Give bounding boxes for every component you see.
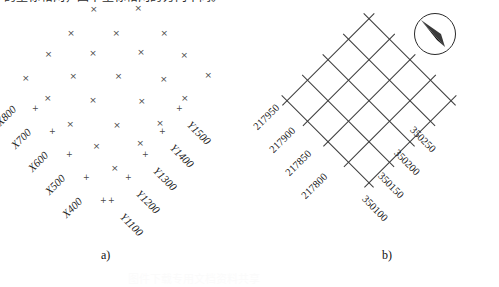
scatter-marker — [159, 75, 168, 84]
scatter-marker — [89, 49, 98, 58]
scatter-marker — [110, 164, 119, 173]
tick-y1400: + — [159, 127, 166, 136]
scatter-marker — [138, 96, 147, 105]
caption-panel-a: a) — [101, 248, 110, 263]
axis-label-x800: X800 — [0, 103, 18, 128]
scatter-marker — [136, 47, 145, 56]
scatter-marker — [160, 28, 169, 37]
scatter-marker — [67, 28, 76, 37]
tick-x400: + — [100, 196, 107, 205]
page-watermark: 图件下载专用文档资料共享 — [128, 270, 378, 284]
scatter-marker — [92, 141, 101, 150]
tick-x700: + — [49, 127, 56, 136]
scatter-row — [94, 8, 186, 100]
scatter-marker — [44, 50, 53, 59]
axis-label-x600: X600 — [26, 149, 51, 174]
tick-y1100: + — [108, 196, 115, 205]
coord-label-350100: 350100 — [360, 193, 390, 223]
north-arrow-compass — [414, 13, 458, 57]
tick-x500: + — [83, 173, 90, 182]
scatter-marker — [135, 139, 144, 148]
figure-panel-b: 217950 217900 217850 217800 350100 35015… — [249, 0, 499, 287]
scatter-row — [48, 54, 140, 146]
axis-label-x500: X500 — [43, 172, 68, 197]
axis-label-x400: X400 — [60, 195, 85, 220]
axis-label-y1200: Y1200 — [134, 188, 162, 216]
figure-panel-a: X800 X700 X600 X500 X400 + + + + + Y1100… — [0, 0, 250, 287]
scatter-marker — [180, 94, 189, 103]
scatter-row — [117, 0, 209, 77]
tick-x600: + — [66, 150, 73, 159]
scatter-marker — [88, 95, 97, 104]
scatter-row — [71, 31, 163, 123]
scatter-marker — [180, 51, 189, 60]
north-arrow-needle-icon — [414, 13, 456, 55]
scatter-marker — [113, 121, 122, 130]
coord-label-217950: 217950 — [251, 102, 281, 132]
scatter-marker — [89, 4, 98, 13]
coord-label-350150: 350150 — [376, 170, 406, 200]
scatter-marker — [66, 119, 75, 128]
axis-label-y1500: Y1500 — [185, 119, 213, 147]
tick-y1200: + — [125, 173, 132, 182]
scatter-marker — [112, 29, 121, 38]
scatter-marker — [44, 94, 53, 103]
scatter-marker — [114, 71, 123, 80]
axis-label-x700: X700 — [9, 126, 34, 151]
scatter-marker — [69, 72, 78, 81]
scatter-marker — [204, 70, 213, 79]
axis-label-y1100: Y1100 — [118, 211, 146, 239]
coord-label-217850: 217850 — [283, 148, 313, 178]
scatter-marker — [134, 4, 143, 13]
tick-y1500: + — [176, 104, 183, 113]
tick-x800: + — [32, 104, 39, 113]
scatter-marker-lattice — [25, 0, 209, 169]
coord-label-217800: 217800 — [299, 171, 329, 201]
axis-label-y1400: Y1400 — [168, 142, 196, 170]
coord-label-350200: 350200 — [392, 147, 422, 177]
axis-label-y1300: Y1300 — [151, 165, 179, 193]
scatter-marker — [21, 73, 30, 82]
caption-panel-b: b) — [382, 248, 392, 263]
coord-label-217900: 217900 — [267, 125, 297, 155]
tick-y1300: + — [142, 150, 149, 159]
